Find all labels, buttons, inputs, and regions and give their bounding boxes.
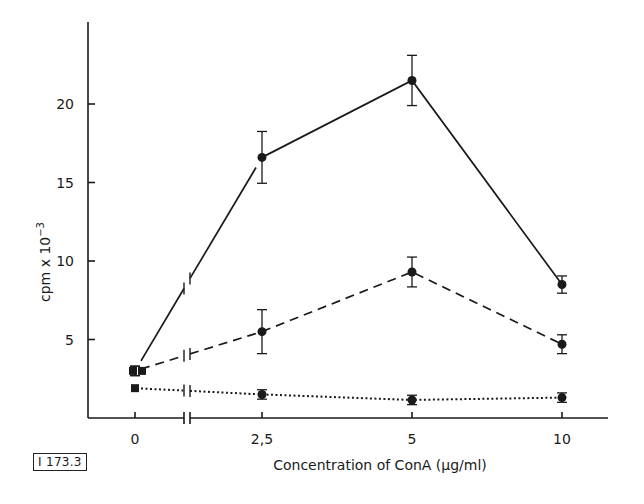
series-line-segment [190, 334, 256, 354]
data-point [408, 395, 417, 404]
series-solid [129, 55, 567, 375]
series-line-segment [190, 167, 256, 278]
data-point-square [138, 367, 146, 375]
y-tick-label: 20 [56, 96, 74, 112]
y-axis-title-text: cpm x 10−3 [35, 222, 53, 302]
y-tick-label: 10 [56, 253, 74, 269]
data-point [258, 390, 267, 399]
data-point [258, 153, 267, 162]
data-point [258, 327, 267, 336]
data-point-square [129, 367, 137, 375]
chart-canvas: 510152002,5510 Concentration of ConA (µg… [0, 0, 644, 504]
y-tick-label: 5 [65, 332, 74, 348]
data-point [558, 280, 567, 289]
data-point-square [131, 384, 139, 392]
series-line-segment [141, 289, 184, 361]
x-axis-title: Concentration of ConA (µg/ml) [273, 457, 487, 473]
series-dashed [130, 257, 567, 376]
series-line-segment [141, 388, 184, 390]
x-tick-label: 2,5 [251, 431, 273, 447]
figure-id-label: I 173.3 [33, 453, 87, 471]
y-axis-title-exponent: −3 [35, 222, 46, 237]
data-point [558, 393, 567, 402]
x-tick-label: 0 [131, 431, 140, 447]
series-line-segment [141, 356, 184, 369]
y-axis-title: cpm x 10−3 [35, 222, 53, 302]
x-tick-label: 5 [408, 431, 417, 447]
series-dotted [131, 384, 567, 404]
data-point [558, 340, 567, 349]
x-tick-label: 10 [553, 431, 571, 447]
data-series [129, 55, 567, 404]
y-tick-label: 15 [56, 175, 74, 191]
series-line-segment [190, 391, 256, 394]
data-point [408, 267, 417, 276]
data-point [408, 76, 417, 85]
series-line [262, 80, 562, 284]
y-axis-title-base: cpm x 10 [37, 237, 53, 302]
